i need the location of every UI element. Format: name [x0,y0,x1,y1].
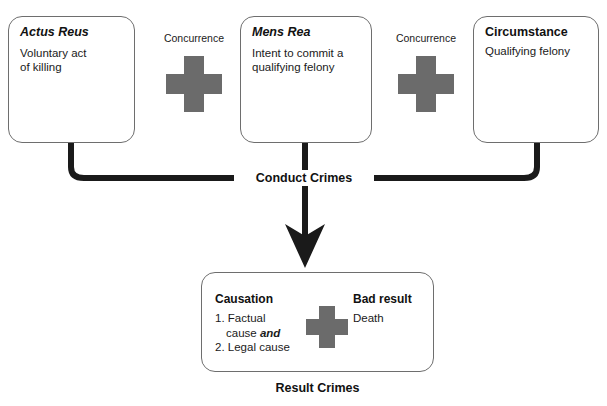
conduct-crimes-label: Conduct Crimes [234,170,374,186]
causation-item-1-emphasis: and [260,327,280,339]
mens-rea-body: Intent to commit aqualifying felony [252,46,365,75]
element-box-circumstance: Circumstance Qualifying felony [473,16,599,143]
causation-item-1-number: 1. [215,312,225,324]
causation-item-1-cont-text: cause [226,327,257,339]
plus-icon [398,56,454,112]
actus-reus-body: Voluntary actof killing [20,46,128,75]
concurrence-label-1: Concurrence [146,33,242,44]
causation-item-1: 1. Factual [215,311,301,325]
causation-column: Causation 1. Factual cause and 2. Legal … [215,293,301,354]
actus-reus-heading: Actus Reus [20,26,128,40]
arrowhead-down-icon [285,224,325,268]
felony-murder-diagram: ELEMENTS OF FELONY MURDER Actus Reus Vol… [0,0,607,406]
plus-icon [306,306,348,348]
bad-result-body: Death [353,311,431,325]
causation-item-2-number: 2. [215,341,225,353]
bad-result-column: Bad result Death [353,293,431,326]
causation-item-2: 2. Legal cause [215,340,301,354]
causation-heading: Causation [215,293,301,306]
concurrence-group-1: Concurrence [146,33,242,112]
causation-item-2-text: Legal cause [228,341,290,353]
causation-item-1-cont: cause and [215,326,301,340]
circumstance-body: Qualifying felony [485,44,592,59]
result-plus-wrapper [306,306,348,348]
actus-reus-content: Actus Reus Voluntary actof killing [20,26,128,75]
result-box: Causation 1. Factual cause and 2. Legal … [201,272,434,372]
element-box-mens-rea: Mens Rea Intent to commit aqualifying fe… [240,16,372,143]
bad-result-heading: Bad result [353,293,431,306]
concurrence-group-2: Concurrence [378,33,474,112]
mens-rea-heading: Mens Rea [252,26,365,40]
concurrence-label-2: Concurrence [378,33,474,44]
circumstance-content: Circumstance Qualifying felony [485,26,592,58]
causation-item-1-text: Factual [228,312,266,324]
page-title: ELEMENTS OF FELONY MURDER [8,0,219,3]
result-box-content: Causation 1. Factual cause and 2. Legal … [202,273,433,371]
mens-rea-content: Mens Rea Intent to commit aqualifying fe… [252,26,365,75]
plus-icon [166,56,222,112]
result-crimes-caption: Result Crimes [201,381,434,395]
element-box-actus-reus: Actus Reus Voluntary actof killing [8,16,135,143]
circumstance-heading: Circumstance [485,26,592,40]
